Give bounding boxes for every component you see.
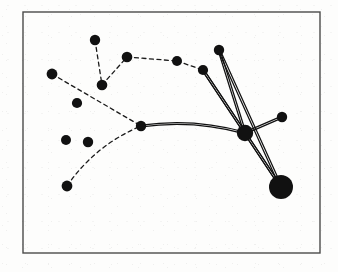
edge-chain-a-b [127, 57, 177, 61]
edge-hub-to-chain-c [202, 69, 246, 133]
node-top-spur-node[interactable] [90, 35, 100, 45]
node-hub-node[interactable] [237, 125, 253, 141]
edge-junction-to-hub [141, 123, 245, 134]
node-lower-left-node[interactable] [62, 181, 73, 192]
node-chain-node-b[interactable] [172, 56, 182, 66]
edge-layer [52, 40, 282, 188]
figure-root [0, 0, 338, 272]
edge-left-to-junction [52, 74, 141, 126]
edge-lower-left-to-junction [67, 126, 141, 186]
edge-elbow-to-chain [102, 57, 127, 85]
node-upper-left-node[interactable] [47, 69, 58, 80]
node-isolated-node-a[interactable] [61, 135, 71, 145]
network-diagram-canvas [0, 0, 338, 272]
node-right-leaf-node[interactable] [277, 112, 287, 122]
node-isolated-node-b[interactable] [83, 137, 93, 147]
node-chain-node-c[interactable] [198, 65, 208, 75]
node-isolated-node-c[interactable] [72, 98, 82, 108]
edge-upper-right-to-terminal [218, 50, 282, 188]
edge-hub-to-upper-right [218, 50, 246, 134]
node-layer [47, 35, 293, 199]
node-large-terminal-node[interactable] [269, 175, 293, 199]
figure-border-group [23, 12, 320, 253]
figure-border [23, 12, 320, 253]
node-chain-node-a[interactable] [122, 52, 133, 63]
node-chain-elbow-node[interactable] [97, 80, 108, 91]
edge-top-spur [95, 40, 102, 85]
node-upper-right-node[interactable] [214, 45, 224, 55]
node-junction-node[interactable] [136, 121, 146, 131]
